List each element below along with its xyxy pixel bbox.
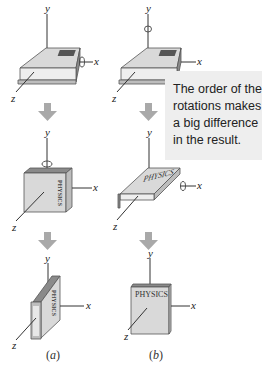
axis-x-b1: x xyxy=(197,56,202,67)
rotation-order-diagram: .ax { stroke: #333; stroke-width: 1; fil… xyxy=(0,0,262,370)
axis-z-b1: z xyxy=(112,93,116,104)
down-arrow-b1 xyxy=(139,103,158,121)
svg-text:PHYSICS: PHYSICS xyxy=(51,290,57,317)
panel-label-b: (b) xyxy=(149,349,163,361)
axis-x-a2: x xyxy=(93,182,98,193)
axis-z-b2: z xyxy=(113,221,117,232)
axis-y-b3: y xyxy=(148,248,153,259)
svg-text:PHYSICS: PHYSICS xyxy=(57,180,63,207)
axis-y-b2: y xyxy=(147,127,152,138)
axis-y-b1: y xyxy=(146,3,151,14)
axis-z-a2: z xyxy=(12,222,16,233)
down-arrow-a2 xyxy=(38,232,57,250)
axis-x-a3: x xyxy=(86,300,91,311)
axis-x-b3: x xyxy=(191,300,196,311)
book-a3-final: PHYSICS xyxy=(16,263,84,340)
callout-line-2: rotations makes xyxy=(173,98,262,115)
cover-title: PHYSICS xyxy=(135,290,168,299)
panel-label-a: (a) xyxy=(46,349,60,361)
book-b3-final: PHYSICS xyxy=(128,258,190,334)
callout-note: The order of the rotations makes a big d… xyxy=(165,71,262,160)
axis-z-a3: z xyxy=(12,340,16,351)
book-a1-flat xyxy=(16,14,93,92)
callout-line-3: a big difference xyxy=(173,115,262,132)
axis-y-a3: y xyxy=(45,253,50,264)
book-a2-upright: PHYSICS xyxy=(16,138,92,221)
callout-line-1: The order of the xyxy=(173,81,262,98)
axis-x-a1: x xyxy=(94,56,99,67)
axis-y-a2: y xyxy=(45,127,50,138)
down-arrow-a1 xyxy=(38,103,57,121)
axis-x-b2: x xyxy=(197,180,202,191)
axis-y-a1: y xyxy=(45,3,50,14)
axis-z-a1: z xyxy=(11,93,15,104)
callout-line-4: in the result. xyxy=(173,132,262,149)
axis-z-b3: z xyxy=(124,331,128,342)
